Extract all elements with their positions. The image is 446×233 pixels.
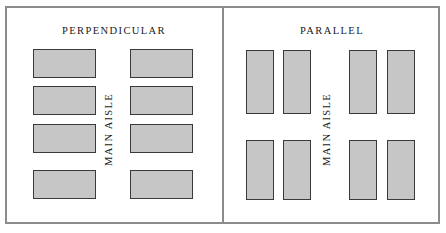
parking-stall [387, 140, 415, 200]
parking-stall [33, 86, 96, 115]
parking-stall [130, 170, 193, 199]
parking-layout-diagram: PERPENDICULAR PARALLEL MAIN AISLE MAIN A… [0, 0, 446, 233]
parking-stall [387, 50, 415, 114]
parking-stall [283, 50, 311, 114]
parking-stall [33, 170, 96, 199]
aisle-label-parallel: MAIN AISLE [321, 85, 332, 175]
panel-title-parallel: PARALLEL [224, 25, 440, 36]
parking-stall [33, 49, 96, 78]
parking-stall [33, 124, 96, 153]
parking-stall [130, 49, 193, 78]
parking-stall [246, 140, 274, 200]
panel-title-perpendicular: PERPENDICULAR [5, 25, 223, 36]
parking-stall [349, 50, 377, 114]
parking-stall [349, 140, 377, 200]
parking-stall [246, 50, 274, 114]
parking-stall [130, 86, 193, 115]
parking-stall [283, 140, 311, 200]
parking-stall [130, 124, 193, 153]
aisle-label-perpendicular: MAIN AISLE [103, 85, 114, 175]
